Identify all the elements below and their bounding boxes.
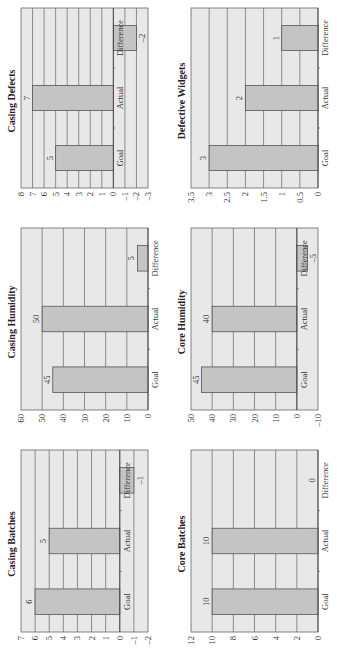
- y-tick-label: 6: [30, 636, 40, 640]
- y-tick-label: 7: [28, 192, 38, 196]
- y-tick-label: 0: [115, 636, 125, 640]
- category-label: Actual: [115, 86, 125, 109]
- y-tick-label: 30: [80, 414, 90, 423]
- core-batches-svg: Core Batches02468101210Goal10Actual0Diff…: [174, 446, 334, 658]
- y-tick-label: 2: [85, 192, 95, 196]
- y-tick-label: 2: [240, 192, 250, 196]
- y-tick-label: 4: [271, 635, 281, 640]
- y-tick-label: 0.5: [295, 192, 305, 203]
- bar-value-label: 2: [234, 96, 244, 100]
- y-tick-label: –2: [131, 192, 141, 202]
- bar-value-label: 5: [126, 256, 136, 260]
- chart-title: Defective Widgets: [176, 63, 187, 140]
- y-tick-label: 6: [250, 636, 260, 640]
- bar-goal: [53, 367, 148, 392]
- y-tick-label: 2.5: [222, 192, 232, 203]
- bar-difference: [137, 246, 148, 271]
- y-tick-label: 40: [207, 414, 217, 423]
- category-label: Goal: [320, 593, 330, 610]
- bar-value-label: 45: [191, 375, 201, 384]
- bar-value-label: 10: [201, 537, 211, 546]
- y-tick-label: 1: [101, 636, 111, 640]
- y-tick-label: 20: [101, 414, 111, 423]
- category-label: Difference: [299, 240, 309, 276]
- category-label: Difference: [150, 240, 160, 276]
- bar-value-label: –1: [135, 476, 145, 486]
- casing-batches-svg: Casing Batches–2–1012345676Goal5Actual–1…: [4, 446, 164, 658]
- y-tick-label: 10: [207, 636, 217, 645]
- category-label: Actual: [320, 529, 330, 552]
- category-label: Actual: [299, 307, 309, 330]
- category-label: Difference: [320, 20, 330, 56]
- y-tick-label: 8: [228, 636, 238, 640]
- y-tick-label: 4: [62, 191, 72, 196]
- chart-title: Casing Humidity: [6, 285, 17, 358]
- y-tick-label: 30: [228, 414, 238, 423]
- y-tick-label: 3: [74, 192, 84, 196]
- bar-value-label: 45: [42, 375, 52, 384]
- bar-actual: [212, 306, 297, 331]
- bar-difference: [282, 25, 318, 50]
- y-tick-label: 5: [44, 636, 54, 640]
- category-label: Goal: [122, 593, 132, 610]
- y-tick-label: –1: [129, 636, 139, 646]
- casing-humidity-svg: Casing Humidity010203040506045Goal50Actu…: [4, 224, 164, 436]
- bar-actual: [212, 528, 318, 553]
- chart-casing-batches: Casing Batches–2–1012345676Goal5Actual–1…: [4, 446, 164, 658]
- bar-value-label: 50: [31, 315, 41, 324]
- y-tick-label: 3: [204, 192, 214, 196]
- y-tick-label: 10: [122, 414, 132, 423]
- category-label: Goal: [115, 149, 125, 166]
- y-tick-label: 4: [58, 635, 68, 640]
- bar-value-label: 5: [38, 539, 48, 543]
- bar-value-label: 3: [198, 156, 208, 160]
- category-label: Difference: [320, 462, 330, 498]
- y-tick-label: 2: [292, 636, 302, 640]
- y-tick-label: 0: [108, 192, 118, 196]
- y-tick-label: 8: [16, 192, 26, 196]
- casing-defects-svg: Casing Defects–3–2–10123456785Goal7Actua…: [4, 4, 164, 214]
- y-tick-label: –3: [143, 192, 153, 202]
- category-label: Goal: [299, 371, 309, 388]
- y-tick-label: 50: [186, 414, 196, 423]
- bar-goal: [56, 145, 114, 170]
- y-tick-label: 0: [143, 414, 153, 418]
- bar-value-label: 0: [307, 478, 317, 482]
- bar-goal: [35, 589, 120, 614]
- bar-goal: [202, 367, 297, 392]
- y-tick-label: 5: [51, 192, 61, 196]
- y-tick-label: 1: [277, 192, 287, 196]
- core-humidity-svg: Core Humidity–100102030405045Goal40Actua…: [174, 224, 334, 436]
- y-tick-label: 0: [313, 192, 323, 196]
- bar-value-label: –5: [308, 254, 318, 264]
- bar-goal: [212, 589, 318, 614]
- y-tick-label: 0: [313, 636, 323, 640]
- bar-actual: [42, 306, 148, 331]
- y-tick-label: 7: [16, 636, 26, 640]
- chart-title: Casing Defects: [6, 69, 17, 132]
- category-label: Actual: [150, 307, 160, 330]
- bar-actual: [245, 85, 318, 110]
- y-tick-label: 3.5: [186, 192, 196, 203]
- category-label: Actual: [122, 529, 132, 552]
- bar-value-label: –2: [137, 34, 147, 44]
- rotated-page: Casing Batches–2–1012345676Goal5Actual–1…: [0, 0, 337, 666]
- chart-defective-widgets: Defective Widgets00.511.522.533.53Goal2A…: [174, 4, 334, 214]
- defective-widgets-svg: Defective Widgets00.511.522.533.53Goal2A…: [174, 4, 334, 214]
- y-tick-label: –1: [120, 192, 130, 202]
- chart-core-humidity: Core Humidity–100102030405045Goal40Actua…: [174, 224, 334, 436]
- y-tick-label: 40: [58, 414, 68, 423]
- bar-actual: [49, 528, 120, 553]
- category-label: Difference: [122, 462, 132, 498]
- bar-actual: [33, 85, 114, 110]
- bar-value-label: 7: [22, 96, 32, 100]
- chart-casing-humidity: Casing Humidity010203040506045Goal50Actu…: [4, 224, 164, 436]
- bar-value-label: 5: [45, 156, 55, 160]
- y-tick-label: 50: [37, 414, 47, 423]
- category-label: Actual: [320, 86, 330, 109]
- y-tick-label: –10: [313, 414, 323, 428]
- chart-casing-defects: Casing Defects–3–2–10123456785Goal7Actua…: [4, 4, 164, 214]
- bar-value-label: 10: [201, 597, 211, 606]
- y-tick-label: –2: [143, 636, 153, 646]
- y-tick-label: 10: [271, 414, 281, 423]
